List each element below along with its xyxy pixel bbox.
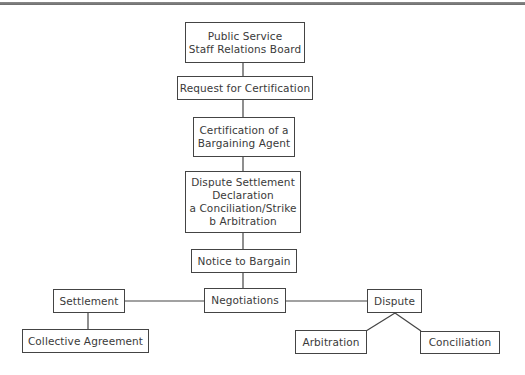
node-label: Dispute xyxy=(374,295,415,308)
node-label: Conciliation xyxy=(429,336,492,349)
node-label: Certification of a xyxy=(199,124,288,137)
node-label: Arbitration xyxy=(302,336,359,349)
node-certification-of-bargaining-agent: Certification of a Bargaining Agent xyxy=(193,117,295,157)
node-label: Declaration xyxy=(212,189,274,202)
node-label: Settlement xyxy=(59,295,118,308)
node-label: Request for Certification xyxy=(180,82,310,95)
node-request-for-certification: Request for Certification xyxy=(177,76,313,100)
node-label: Notice to Bargain xyxy=(198,255,291,268)
node-label: Staff Relations Board xyxy=(189,43,301,56)
node-negotiations: Negotiations xyxy=(204,288,286,313)
node-collective-agreement: Collective Agreement xyxy=(22,329,149,353)
node-label: Bargaining Agent xyxy=(198,137,291,150)
node-dispute: Dispute xyxy=(367,289,422,313)
edge-dispute-arbitration xyxy=(366,313,395,331)
node-staff-relations-board: Public Service Staff Relations Board xyxy=(185,22,305,63)
node-label: Negotiations xyxy=(211,294,279,307)
node-dispute-settlement-declaration: Dispute Settlement Declaration a Concili… xyxy=(185,171,301,233)
node-label: a Conciliation/Strike xyxy=(189,202,296,215)
node-conciliation: Conciliation xyxy=(420,331,500,354)
node-label: Collective Agreement xyxy=(28,335,143,348)
node-arbitration: Arbitration xyxy=(295,330,367,354)
node-notice-to-bargain: Notice to Bargain xyxy=(191,249,297,273)
edge-dispute-conciliation xyxy=(395,313,421,331)
node-settlement: Settlement xyxy=(53,289,125,313)
node-label: Public Service xyxy=(208,30,283,43)
node-label: b Arbitration xyxy=(209,215,276,228)
node-label: Dispute Settlement xyxy=(191,176,295,189)
